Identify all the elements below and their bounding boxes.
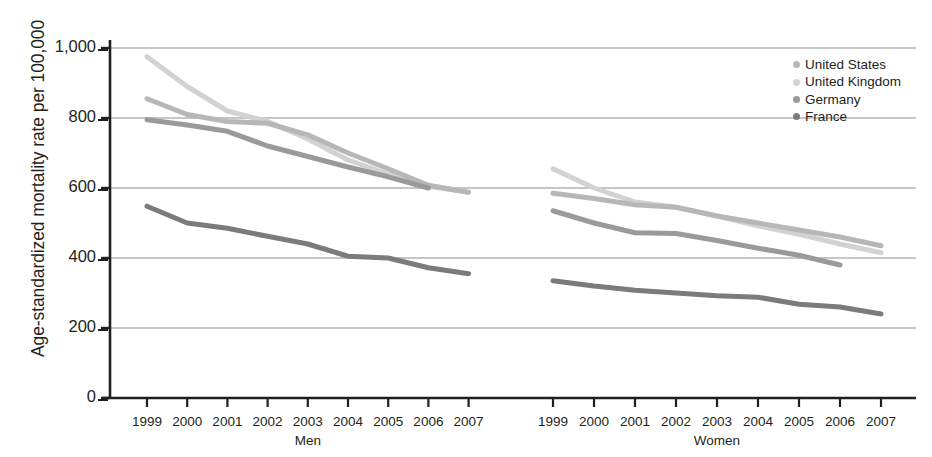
x-tick-label: 1999 (538, 414, 568, 429)
legend-item-united-kingdom: United Kingdom (793, 73, 901, 90)
legend-label: Germany (805, 91, 861, 108)
series-line-france (147, 206, 469, 274)
legend-swatch-icon (793, 61, 800, 68)
legend-item-united-states: United States (793, 56, 901, 73)
x-tick-label: 2003 (702, 414, 732, 429)
x-tick-label: 2002 (661, 414, 691, 429)
legend-label: United Kingdom (805, 73, 901, 90)
legend-label: United States (805, 56, 886, 73)
x-tick-label: 2006 (825, 414, 855, 429)
series-line-germany (553, 211, 840, 265)
legend-swatch-icon (793, 79, 800, 86)
x-tick-label: 2004 (743, 414, 773, 429)
x-tick-label: 2000 (579, 414, 609, 429)
series-line-united-states (147, 99, 469, 192)
legend-swatch-icon (793, 113, 800, 120)
panel-title-women: Women (694, 433, 740, 448)
x-tick-label: 2002 (253, 414, 283, 429)
x-tick-label: 2005 (373, 414, 403, 429)
x-tick-label: 2000 (172, 414, 202, 429)
legend-item-germany: Germany (793, 91, 901, 108)
legend-item-france: France (793, 108, 901, 125)
x-tick-label: 2005 (784, 414, 814, 429)
x-tick-label: 2007 (866, 414, 896, 429)
legend-swatch-icon (793, 96, 800, 103)
x-tick-label: 2006 (413, 414, 443, 429)
legend-label: France (805, 108, 847, 125)
chart-figure: Age-standardized mortality rate per 100,… (0, 0, 932, 457)
chart-legend: United StatesUnited KingdomGermanyFrance (793, 56, 901, 126)
x-tick-label: 2003 (293, 414, 323, 429)
x-tick-label: 1999 (132, 414, 162, 429)
series-line-france (553, 281, 881, 314)
x-tick-label: 2004 (333, 414, 363, 429)
x-tick-label: 2007 (454, 414, 484, 429)
series-line-united-states (553, 193, 881, 246)
x-tick-label: 2001 (212, 414, 242, 429)
x-tick-label: 2001 (620, 414, 650, 429)
panel-title-men: Men (295, 433, 321, 448)
